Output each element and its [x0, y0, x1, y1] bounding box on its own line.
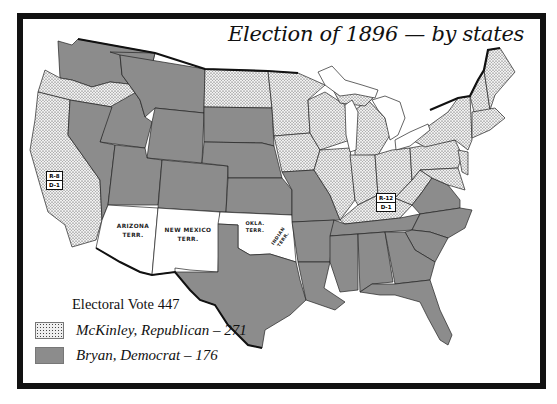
california-rep-votes: R-8	[47, 172, 62, 181]
state-mississippi	[330, 234, 358, 292]
new-mexico-territory-label: NEW MEXICO TERR.	[160, 226, 216, 244]
kentucky-split-box: R-12 D-1	[376, 193, 396, 212]
legend-item-democrat: Bryan, Democrat – 176	[35, 347, 218, 364]
state-maine	[484, 48, 515, 110]
gray-swatch-icon	[35, 347, 64, 364]
dotted-swatch-icon	[35, 322, 64, 339]
state-south-dakota	[204, 107, 274, 146]
state-florida	[360, 280, 452, 345]
legend-item-republican: McKinley, Republican – 271	[35, 322, 247, 339]
kentucky-rep-votes: R-12	[377, 194, 395, 203]
state-arkansas	[292, 220, 334, 262]
map-title: Election of 1896 — by states	[228, 22, 524, 46]
us-map	[0, 0, 557, 404]
state-kansas	[226, 178, 292, 215]
kentucky-dem-votes: D-1	[377, 203, 395, 211]
state-wyoming	[147, 108, 204, 163]
california-dem-votes: D-1	[47, 181, 62, 189]
state-mass-ct-ri	[472, 108, 505, 138]
arizona-territory-label: ARIZONA TERR.	[108, 222, 158, 240]
oklahoma-territory-label: OKLA. TERR.	[242, 220, 268, 234]
legend-heading: Electoral Vote 447	[72, 296, 179, 313]
legend-label-republican: McKinley, Republican – 271	[76, 322, 247, 339]
state-north-dakota	[204, 69, 272, 108]
legend-label-democrat: Bryan, Democrat – 176	[76, 347, 218, 364]
state-colorado	[158, 160, 228, 212]
california-split-box: R-8 D-1	[46, 171, 63, 190]
lake-michigan	[345, 100, 358, 152]
